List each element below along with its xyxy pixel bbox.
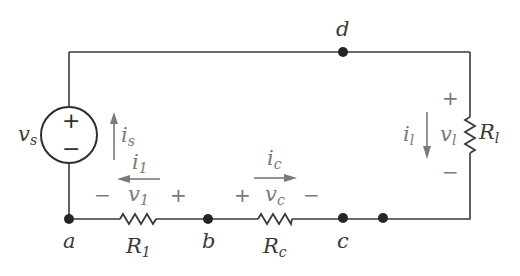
source-voltage-symbol: v [18, 122, 30, 146]
node-extra [378, 213, 388, 223]
rc-symbol: R [263, 234, 279, 258]
rl-voltage-subscript: l [452, 132, 456, 148]
circuit-diagram: + − vs is i1 − v1 + R1 ic + vc − Rc a b … [0, 0, 520, 276]
r1-voltage-right-sign: + [170, 185, 187, 205]
rc-voltage-symbol: v [265, 182, 277, 206]
r1-current-label: i1 [132, 152, 148, 175]
r1-current-symbol: i [132, 150, 139, 174]
rl-current-symbol: i [403, 122, 410, 146]
rc-current-symbol: i [267, 146, 274, 170]
rc-current-subscript: c [274, 156, 282, 172]
rl-subscript: l [495, 130, 499, 146]
current-ic-arrow-icon [254, 174, 297, 182]
r1-voltage-subscript: 1 [140, 192, 149, 208]
node-c [338, 213, 348, 223]
current-il-arrow-icon [423, 112, 431, 159]
source-voltage-subscript: s [30, 132, 37, 148]
rl-voltage-label: vl [440, 124, 456, 147]
rc-current-label: ic [267, 148, 282, 171]
rl-current-subscript: l [410, 132, 414, 148]
source-current-symbol: i [121, 123, 128, 147]
rl-voltage-top-sign: + [442, 88, 459, 108]
r1-current-subscript: 1 [139, 160, 148, 176]
rc-voltage-left-sign: + [234, 185, 251, 205]
resistor-rl-icon [465, 117, 475, 153]
node-b-label: b [202, 231, 215, 252]
rc-voltage-right-sign: − [303, 185, 320, 205]
node-d-label: d [336, 19, 349, 40]
rc-subscript: c [279, 244, 287, 260]
r1-subscript: 1 [142, 244, 151, 260]
r1-voltage-symbol: v [128, 182, 140, 206]
node-a [64, 214, 74, 224]
r1-label: R1 [126, 236, 151, 259]
source-voltage-label: vs [18, 124, 37, 147]
resistor-r1-icon [120, 214, 156, 224]
source-plus-sign: + [62, 110, 80, 132]
current-is-arrow-icon [110, 112, 118, 160]
r1-voltage-label: v1 [128, 184, 149, 207]
r1-voltage-left-sign: − [94, 185, 111, 205]
node-c-label: c [337, 231, 349, 252]
r1-symbol: R [126, 234, 142, 258]
rl-symbol: R [479, 120, 495, 144]
rl-voltage-symbol: v [440, 122, 452, 146]
node-b [203, 214, 213, 224]
rl-current-label: il [403, 124, 414, 147]
resistor-rc-icon [258, 214, 292, 224]
source-minus-sign: − [62, 138, 80, 160]
node-a-label: a [63, 231, 76, 252]
source-current-label: is [121, 125, 135, 148]
source-current-subscript: s [128, 133, 135, 149]
rc-voltage-label: vc [265, 184, 285, 207]
node-d [338, 47, 348, 57]
rl-voltage-bottom-sign: − [442, 162, 459, 182]
rc-label: Rc [263, 236, 287, 259]
rl-label: Rl [479, 122, 499, 145]
rc-voltage-subscript: c [277, 192, 285, 208]
